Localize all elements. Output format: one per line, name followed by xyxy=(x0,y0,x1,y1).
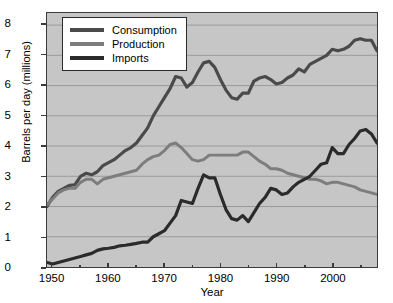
x-tick-label-1960: 1960 xyxy=(88,272,128,284)
y-tick-label-6: 6 xyxy=(0,79,11,91)
y-tick-label-0: 0 xyxy=(0,262,11,274)
legend-swatch-production xyxy=(70,42,104,46)
x-minor-tick-2005 xyxy=(360,265,362,269)
x-tick-label-1980: 1980 xyxy=(200,272,240,284)
x-minor-tick-1985 xyxy=(248,265,250,269)
y-tick-label-8: 8 xyxy=(0,18,11,30)
y-tick-label-7: 7 xyxy=(0,49,11,61)
legend-label-imports: Imports xyxy=(112,53,149,64)
x-minor-tick-1995 xyxy=(304,265,306,269)
x-tick-label-1990: 1990 xyxy=(257,272,297,284)
y-axis-label: Barrels per day (millions) xyxy=(20,12,32,192)
x-tick-mark-1950 xyxy=(51,263,53,268)
x-tick-mark-2000 xyxy=(332,263,334,268)
x-minor-tick-1965 xyxy=(135,265,137,269)
x-tick-label-1970: 1970 xyxy=(144,272,184,284)
legend-label-consumption: Consumption xyxy=(112,25,177,36)
legend-item-consumption: Consumption xyxy=(70,23,177,37)
x-minor-tick-1975 xyxy=(192,265,194,269)
x-minor-tick-1955 xyxy=(79,265,81,269)
y-tick-label-2: 2 xyxy=(0,201,11,213)
y-tick-label-5: 5 xyxy=(0,110,11,122)
x-tick-mark-1960 xyxy=(107,263,109,268)
x-tick-mark-1990 xyxy=(276,263,278,268)
x-axis-label: Year xyxy=(46,286,378,298)
y-tick-label-3: 3 xyxy=(0,171,11,183)
y-tick-label-1: 1 xyxy=(0,232,11,244)
legend-swatch-imports xyxy=(70,56,104,60)
chart-legend: Consumption Production Imports xyxy=(62,17,187,71)
y-tick-label-4: 4 xyxy=(0,140,11,152)
x-tick-label-2000: 2000 xyxy=(313,272,353,284)
oil-chart-figure: Barrels per day (millions) 012345678 195… xyxy=(0,0,393,303)
x-tick-mark-1970 xyxy=(163,263,165,268)
legend-label-production: Production xyxy=(112,39,165,50)
x-tick-label-1950: 1950 xyxy=(32,272,72,284)
legend-item-imports: Imports xyxy=(70,51,177,65)
legend-item-production: Production xyxy=(70,37,177,51)
x-tick-mark-1980 xyxy=(220,263,222,268)
legend-swatch-consumption xyxy=(70,28,104,32)
